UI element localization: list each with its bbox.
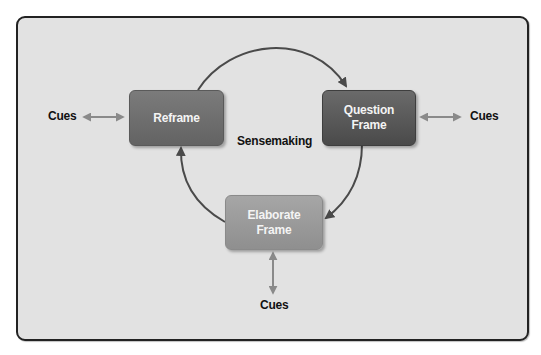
arrow-elaborate-to-reframe <box>181 148 225 222</box>
node-reframe-label: Reframe <box>153 111 200 126</box>
node-elaborate-frame-label-line1: Elaborate <box>248 208 301 223</box>
cues-label-bottom: Cues <box>260 298 289 312</box>
node-question-frame-label-line2: Frame <box>344 118 394 133</box>
node-elaborate-frame-label-line2: Frame <box>248 223 301 238</box>
node-question-frame-label-line1: Question <box>344 103 394 118</box>
arrow-question-to-elaborate <box>326 144 362 218</box>
cues-label-right: Cues <box>470 109 499 123</box>
sensemaking-label: Sensemaking <box>237 134 312 148</box>
arrow-reframe-to-question <box>198 48 346 90</box>
node-reframe: Reframe <box>129 90 224 146</box>
node-elaborate-frame: Elaborate Frame <box>225 195 323 250</box>
cues-label-left: Cues <box>48 109 77 123</box>
node-question-frame: Question Frame <box>322 90 416 146</box>
